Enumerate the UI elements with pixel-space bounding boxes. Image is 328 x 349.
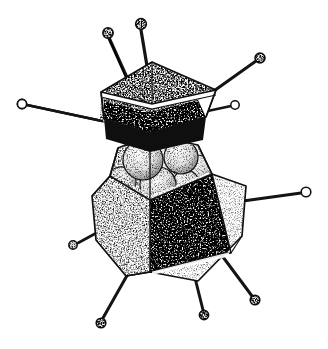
illustration-canvas: Adenovirus particle, cut-away stipple dr… [0, 0, 328, 349]
fiber-knob-icon [231, 101, 239, 109]
fiber-knob-icon [17, 99, 26, 108]
adenovirus-illustration [0, 0, 328, 349]
fiber-knob-icon [301, 187, 311, 197]
